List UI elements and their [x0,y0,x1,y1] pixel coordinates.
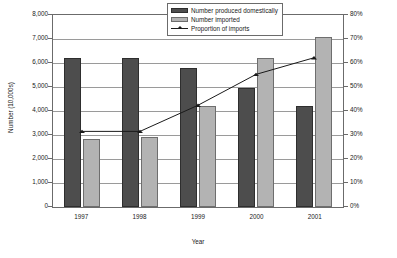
right-axis-tick-mark [344,134,348,135]
right-axis-tick-mark [344,86,348,87]
x-axis-title: Year [52,238,344,245]
left-axis-tick-mark [48,158,52,159]
left-axis-tick-label: 7,000 [4,34,48,41]
right-axis-tick-label: 30% [350,130,363,137]
right-axis-tick-mark [344,158,348,159]
line-marker-swatch-icon [171,24,188,33]
chart-legend: Number produced domesticallyNumber impor… [167,3,283,36]
bar-group [53,15,111,207]
legend-item-label: Number produced domestically [191,7,278,15]
bar-domestic [64,58,81,207]
legend-item-label: Proportion of imports [191,25,249,33]
bar-group [111,15,169,207]
left-axis-tick-label: 0 [4,202,48,209]
right-axis-tick-label: 70% [350,34,363,41]
bar-group [285,15,343,207]
legend-item: Number produced domestically [171,6,278,15]
bar-domestic [180,68,197,207]
legend-item-label: Number imported [191,16,240,24]
right-axis-tick-label: 10% [350,178,363,185]
left-axis-tick-mark [48,206,52,207]
bar-imported [83,139,100,207]
right-axis-tick-label: 0% [350,202,359,209]
x-axis-tick-label: 2001 [286,213,344,225]
x-axis-tick-label: 1997 [52,213,110,225]
left-axis-tick-mark [48,38,52,39]
right-axis-tick-mark [344,110,348,111]
right-axis: 0%10%20%30%40%50%60%70%80% [350,0,396,258]
right-axis-tick-mark [344,182,348,183]
left-axis-tick-mark [48,62,52,63]
right-axis-tick-mark [344,206,348,207]
y-axis-title: Number (10,000s) [7,60,14,156]
plot-area [52,14,344,208]
legend-item: Proportion of imports [171,24,278,33]
bar-imported [141,137,158,207]
light-bar-swatch-icon [171,17,188,22]
right-axis-tick-mark [344,14,348,15]
bar-imported [315,37,332,207]
left-axis-tick-label: 1,000 [4,178,48,185]
bar-group [227,15,285,207]
x-axis-categories: 19971998199920002001 [52,213,344,225]
left-axis-tick-mark [48,14,52,15]
bar-domestic [238,88,255,207]
bars-layer [53,15,343,207]
bar-domestic [122,58,139,207]
bar-group [169,15,227,207]
bar-domestic [296,106,313,207]
x-axis-tick-label: 1998 [110,213,168,225]
right-axis-tick-label: 50% [350,82,363,89]
bar-imported [257,58,274,207]
left-axis-tick-mark [48,110,52,111]
left-axis-tick-mark [48,182,52,183]
right-axis-tick-mark [344,38,348,39]
right-axis-tick-label: 20% [350,154,363,161]
bar-imported [199,106,216,207]
legend-item: Number imported [171,15,278,24]
dark-bar-swatch-icon [171,8,188,13]
right-axis-tick-label: 60% [350,58,363,65]
left-axis-tick-mark [48,86,52,87]
combo-bar-line-chart: 01,0002,0003,0004,0005,0006,0007,0008,00… [0,0,397,258]
left-axis-tick-label: 8,000 [4,10,48,17]
x-axis-tick-label: 1999 [169,213,227,225]
right-axis-tick-label: 80% [350,10,363,17]
x-axis-tick-label: 2000 [227,213,285,225]
right-axis-tick-label: 40% [350,106,363,113]
left-axis-tick-mark [48,134,52,135]
right-axis-tick-mark [344,62,348,63]
